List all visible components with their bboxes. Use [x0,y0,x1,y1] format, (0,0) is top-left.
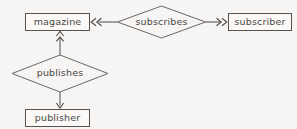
relationship-subscribes-label: subscribes [135,16,187,27]
connector-publishes-publisher [56,92,63,108]
connector-subscribes-subscriber [206,18,227,26]
relationship-subscribes[interactable]: subscribes [118,6,206,38]
entity-publisher-label: publisher [35,112,80,123]
connector-publishes-magazine [56,31,63,55]
relationship-publishes-label: publishes [37,67,83,78]
er-diagram: magazine subscriber publisher subscribes… [0,0,297,129]
entity-subscriber-label: subscriber [235,16,286,27]
entity-magazine-label: magazine [34,16,82,27]
entity-magazine[interactable]: magazine [26,14,90,31]
connector-subscribes-magazine [91,18,117,26]
entity-subscriber[interactable]: subscriber [229,14,292,31]
entity-publisher[interactable]: publisher [26,110,90,127]
relationship-publishes[interactable]: publishes [12,55,108,92]
er-diagram-canvas: magazine subscriber publisher subscribes… [0,0,297,129]
